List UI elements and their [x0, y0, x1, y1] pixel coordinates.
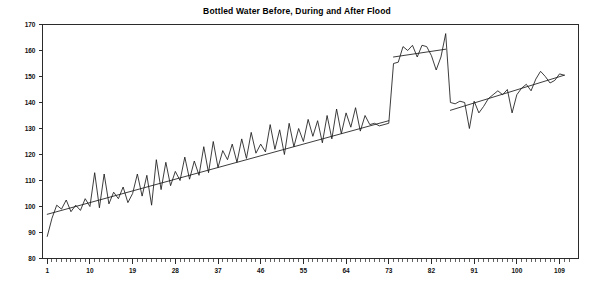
chart-axes — [43, 25, 579, 259]
y-tick-label: 160 — [25, 47, 36, 54]
x-tick-label: 19 — [129, 267, 137, 274]
y-tick-label: 150 — [25, 73, 36, 80]
y-tick-label: 100 — [25, 203, 36, 210]
x-tick-label: 28 — [172, 267, 180, 274]
y-tick-label: 110 — [25, 177, 36, 184]
y-tick-label: 120 — [25, 151, 36, 158]
x-tick-label: 55 — [300, 267, 308, 274]
x-tick-label: 91 — [471, 267, 479, 274]
x-tick-label: 1 — [45, 267, 49, 274]
x-tick-label: 109 — [554, 267, 565, 274]
x-tick-label: 37 — [214, 267, 222, 274]
chart-plot-area: 8090100110120130140150160170 11019283746… — [0, 0, 594, 291]
chart-root: Bottled Water Before, During and After F… — [0, 0, 594, 291]
x-tick-label: 82 — [428, 267, 436, 274]
x-tick-label: 46 — [257, 267, 265, 274]
post-flood-trend — [450, 75, 564, 110]
y-tick-label: 80 — [28, 255, 36, 262]
x-tick-label: 73 — [385, 267, 393, 274]
x-tick-label: 64 — [342, 267, 350, 274]
y-tick-label: 130 — [25, 125, 36, 132]
series-bottled-water-sales — [47, 34, 564, 237]
y-tick-label: 140 — [25, 99, 36, 106]
y-tick-label: 170 — [25, 21, 36, 28]
x-axis-tick-labels: 110192837465564738291100109 — [45, 267, 565, 274]
y-tick-label: 90 — [28, 229, 36, 236]
x-tick-label: 10 — [86, 267, 94, 274]
data-series-line — [47, 34, 564, 237]
x-tick-label: 100 — [511, 267, 522, 274]
y-axis-tick-labels: 8090100110120130140150160170 — [25, 21, 36, 262]
